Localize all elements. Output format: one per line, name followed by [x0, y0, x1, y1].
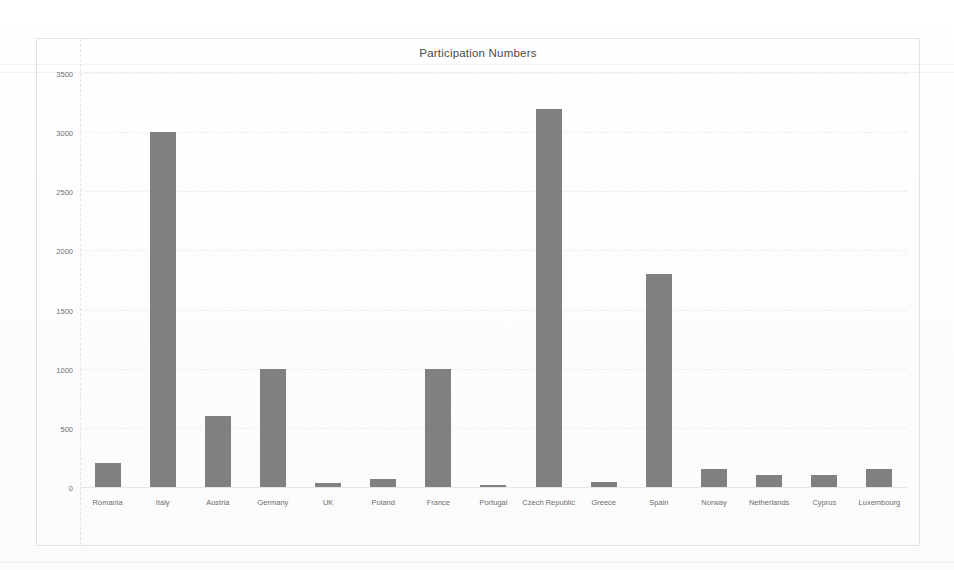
bar: [701, 469, 727, 487]
x-axis-tick-label: Czech Republic: [522, 498, 575, 507]
bar: [425, 369, 451, 487]
bar-group: Austria: [190, 73, 245, 487]
x-axis-tick-label: France: [427, 498, 450, 507]
x-axis-tick-label: Portugal: [480, 498, 508, 507]
bar-group: Netherlands: [742, 73, 797, 487]
bar-group: Romania: [80, 73, 135, 487]
x-axis-tick-label: Cyprus: [812, 498, 836, 507]
bar-group: Cyprus: [797, 73, 852, 487]
x-axis-tick-label: Netherlands: [749, 498, 789, 507]
x-axis-tick-label: Luxembourg: [859, 498, 901, 507]
y-axis-tick-label: 1500: [56, 306, 73, 315]
x-axis-tick-label: Romania: [93, 498, 123, 507]
x-axis-tick-label: Greece: [591, 498, 616, 507]
bar-group: Luxembourg: [852, 73, 907, 487]
bar: [260, 369, 286, 487]
bar-group: Italy: [135, 73, 190, 487]
y-axis-tick-label: 0: [69, 484, 73, 493]
bar: [150, 132, 176, 487]
bar-group: Czech Republic: [521, 73, 576, 487]
chart-frame: Participation Numbers 050010001500200025…: [36, 38, 920, 546]
scan-artifact-line: [0, 562, 954, 563]
y-axis-tick-label: 500: [60, 424, 73, 433]
bar-group: France: [411, 73, 466, 487]
x-axis-tick-label: Poland: [372, 498, 395, 507]
bar: [646, 274, 672, 487]
bar: [866, 469, 892, 487]
x-axis-tick-label: UK: [323, 498, 333, 507]
x-axis-tick-label: Spain: [649, 498, 668, 507]
y-axis-tick-label: 3000: [56, 129, 73, 138]
bar: [95, 463, 121, 487]
bars-layer: RomaniaItalyAustriaGermanyUKPolandFrance…: [80, 73, 907, 487]
x-axis-tick-label: Norway: [701, 498, 726, 507]
bar-group: Poland: [356, 73, 411, 487]
bar-group: Portugal: [466, 73, 521, 487]
bar-group: Greece: [576, 73, 631, 487]
x-axis-tick-label: Austria: [206, 498, 229, 507]
x-axis-tick-label: Germany: [258, 498, 289, 507]
gridline: 0: [80, 487, 907, 488]
bar-group: Spain: [631, 73, 686, 487]
bar: [756, 475, 782, 487]
bar-group: Norway: [686, 73, 741, 487]
bar: [315, 483, 341, 487]
bar: [811, 475, 837, 487]
bar-group: Germany: [245, 73, 300, 487]
bar: [591, 482, 617, 487]
plot-area: 0500100015002000250030003500 RomaniaItal…: [80, 73, 907, 487]
y-axis-tick-label: 2500: [56, 188, 73, 197]
chart-title: Participation Numbers: [37, 47, 919, 59]
bar: [205, 416, 231, 487]
bar-group: UK: [301, 73, 356, 487]
x-axis-tick-label: Italy: [156, 498, 170, 507]
y-axis-tick-label: 3500: [56, 70, 73, 79]
y-axis-tick-label: 2000: [56, 247, 73, 256]
bar: [536, 109, 562, 488]
bar: [480, 485, 506, 487]
y-axis-tick-label: 1000: [56, 365, 73, 374]
bar: [370, 479, 396, 487]
